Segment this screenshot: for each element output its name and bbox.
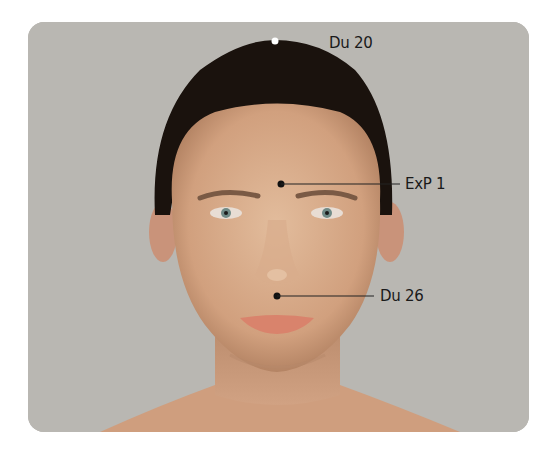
du20-label: Du 20 [329,36,372,51]
acupoint-markers [0,0,556,449]
du26-label: Du 26 [380,289,423,304]
du20-dot [272,38,279,45]
exp1-label: ExP 1 [405,177,445,192]
